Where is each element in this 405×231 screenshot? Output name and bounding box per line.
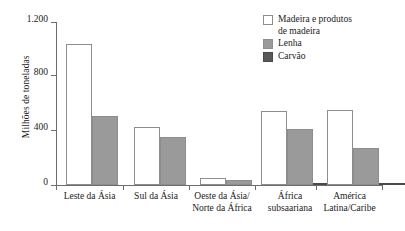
- y-tick-label-400: 400: [34, 123, 48, 133]
- legend-item-madeira: Madeira e produtos de madeira: [263, 14, 352, 37]
- bar-madeira-leste-da-asia: [66, 44, 92, 185]
- legend-item-lenha: Lenha: [263, 38, 352, 50]
- x-tick-2: [189, 186, 190, 190]
- legend-label-madeira: Madeira e produtos de madeira: [278, 14, 352, 37]
- x-tick-1: [123, 186, 124, 190]
- legend-swatch-madeira-icon: [263, 15, 273, 25]
- x-tick-5: [382, 186, 383, 190]
- chart-legend: Madeira e produtos de madeira Lenha Carv…: [263, 14, 352, 63]
- bar-group-oeste-da-asia-norte-da-africa: [189, 22, 255, 185]
- bar-group-sul-da-asia: [123, 22, 189, 185]
- bar-madeira-sul-da-asia: [134, 127, 160, 185]
- bar-group-leste-da-asia: [56, 22, 123, 185]
- legend-swatch-lenha-icon: [263, 39, 273, 49]
- y-tick-label-0: 0: [43, 178, 48, 188]
- bar-lenha-oeste-da-asia: [226, 180, 252, 185]
- x-tick-3: [255, 186, 256, 190]
- legend-swatch-carvao-icon: [263, 52, 273, 62]
- y-tick-label-1200: 1.200: [27, 15, 48, 25]
- legend-label-carvao: Carvão: [278, 51, 305, 63]
- x-category-label-2: Oeste da Ásia/ Norte da África: [186, 191, 258, 214]
- bar-lenha-sul-da-asia: [160, 137, 186, 185]
- x-tick-0: [56, 186, 57, 190]
- bar-madeira-oeste-da-asia: [200, 178, 226, 185]
- legend-label-lenha: Lenha: [278, 38, 302, 50]
- bar-madeira-africa-subsaariana: [261, 111, 287, 185]
- bar-lenha-america-latina: [353, 148, 379, 185]
- x-category-label-4: América Latina/Caribe: [316, 191, 383, 214]
- x-tick-4: [316, 186, 317, 190]
- bar-lenha-leste-da-asia: [92, 116, 118, 185]
- x-category-label-0: Leste da Ásia: [56, 191, 123, 203]
- bar-madeira-america-latina: [327, 110, 353, 185]
- x-category-label-1: Sul da Ásia: [123, 191, 189, 203]
- legend-item-carvao: Carvão: [263, 51, 352, 63]
- y-tick-label-800: 800: [34, 68, 48, 78]
- bar-carvao-america-latina: [379, 183, 405, 185]
- x-axis-line: [56, 185, 383, 186]
- y-axis-title: Milhões de toneladas: [22, 27, 32, 167]
- bar-lenha-africa-subsaariana: [287, 129, 313, 185]
- x-category-label-3: África subsaariana: [256, 191, 324, 214]
